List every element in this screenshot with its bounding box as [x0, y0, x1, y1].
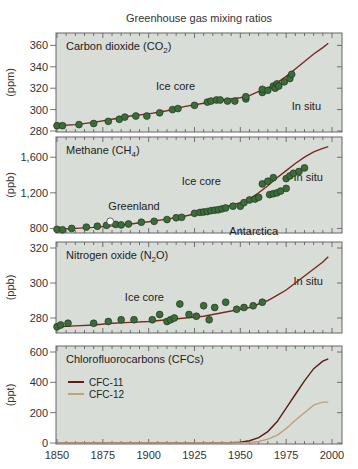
legend-label: CFC-11: [89, 377, 124, 388]
y-tick-label: 1,600: [20, 151, 48, 163]
data-point: [83, 224, 90, 231]
data-point: [186, 311, 193, 318]
data-point: [90, 320, 97, 327]
annotation: Ice core: [125, 291, 164, 303]
data-point: [121, 114, 128, 121]
data-point: [171, 315, 178, 322]
y-tick-label: 280: [30, 312, 48, 324]
annotation: Antarctica: [229, 225, 279, 237]
data-point: [138, 219, 145, 226]
data-point: [175, 105, 182, 112]
data-point: [178, 214, 185, 221]
data-point: [233, 306, 240, 313]
y-tick-label: 320: [30, 242, 48, 254]
y-tick-label: 280: [30, 125, 48, 137]
data-point: [176, 301, 183, 308]
data-point: [143, 113, 150, 120]
data-point: [241, 304, 248, 311]
data-point: [59, 122, 66, 129]
data-point: [222, 299, 229, 306]
y-tick-label: 600: [30, 346, 48, 358]
data-point: [224, 98, 231, 105]
data-point: [118, 316, 125, 323]
y-tick-label: 300: [30, 277, 48, 289]
data-point: [230, 203, 237, 210]
data-point: [118, 221, 125, 228]
y-tick-label: 1,200: [20, 187, 48, 199]
annotation: Greenland: [108, 200, 159, 212]
data-point: [250, 302, 257, 309]
data-point: [270, 174, 277, 181]
data-point: [151, 218, 158, 225]
data-point: [125, 221, 132, 228]
data-point: [76, 121, 83, 128]
data-point: [105, 318, 112, 325]
data-point: [68, 225, 75, 232]
data-point: [59, 226, 66, 233]
data-point: [156, 109, 163, 116]
data-point: [90, 120, 97, 127]
data-point: [231, 98, 238, 105]
x-axis: 1850187519001925195019752000: [45, 449, 344, 461]
panel-cfc: 0200400600(ppt)Chlorofluorocarbons (CFCs…: [4, 346, 342, 449]
x-tick-label: 1925: [182, 449, 206, 461]
data-point: [242, 93, 249, 100]
annotation: In situ: [292, 100, 321, 112]
annotation: Ice core: [182, 175, 221, 187]
data-point: [255, 194, 262, 201]
y-tick-label: 0: [42, 437, 48, 449]
y-tick-label: 300: [30, 104, 48, 116]
data-point: [211, 304, 218, 311]
data-point: [206, 316, 213, 323]
data-point: [200, 302, 207, 309]
data-point: [57, 322, 64, 329]
data-point: [94, 223, 101, 230]
y-tick-label: 400: [30, 376, 48, 388]
greenhouse-gas-chart: Greenhouse gas mixing ratios 28030032034…: [0, 0, 358, 469]
data-point: [156, 311, 163, 318]
data-point: [283, 185, 290, 192]
data-point: [131, 316, 138, 323]
y-tick-label: 360: [30, 39, 48, 51]
y-tick-label: 340: [30, 61, 48, 73]
panels: 280300320340360(ppm)Carbon dioxide (CO2)…: [4, 33, 342, 449]
y-axis-label: (ppb): [4, 275, 16, 301]
y-tick-label: 200: [30, 407, 48, 419]
x-tick-label: 1900: [136, 449, 160, 461]
y-tick-label: 800: [30, 222, 48, 234]
data-point: [193, 313, 200, 320]
data-point: [191, 102, 198, 109]
x-tick-label: 1975: [274, 449, 298, 461]
chart-title: Greenhouse gas mixing ratios: [126, 12, 273, 24]
x-tick-label: 2000: [320, 449, 344, 461]
x-tick-label: 1850: [45, 449, 69, 461]
data-point: [301, 165, 308, 172]
legend-label: CFC-12: [89, 389, 124, 400]
data-point: [288, 71, 295, 78]
y-tick-label: 320: [30, 82, 48, 94]
data-point: [149, 316, 156, 323]
x-tick-label: 1950: [228, 449, 252, 461]
data-point: [164, 216, 171, 223]
y-axis-label: (ppm): [4, 68, 16, 97]
data-point: [259, 299, 266, 306]
y-axis-label: (ppb): [4, 172, 16, 198]
panel-label: Chlorofluorocarbons (CFCs): [66, 353, 204, 365]
panel-co2: 280300320340360(ppm)Carbon dioxide (CO2)…: [4, 33, 342, 137]
data-point: [222, 205, 229, 212]
x-tick-label: 1875: [91, 449, 115, 461]
y-axis-label: (ppt): [4, 384, 16, 407]
annotation: Ice core: [156, 80, 195, 92]
panel-n2o: 280300320(ppb)Nitrogen oxide (N2O)Ice co…: [4, 242, 342, 333]
data-point: [132, 113, 139, 120]
panel-ch4: 8001,2001,600(ppb)Methane (CH4)Greenland…: [4, 137, 342, 237]
data-point: [65, 320, 72, 327]
open-data-point: [107, 218, 114, 225]
data-point: [217, 97, 224, 104]
data-point: [105, 118, 112, 125]
